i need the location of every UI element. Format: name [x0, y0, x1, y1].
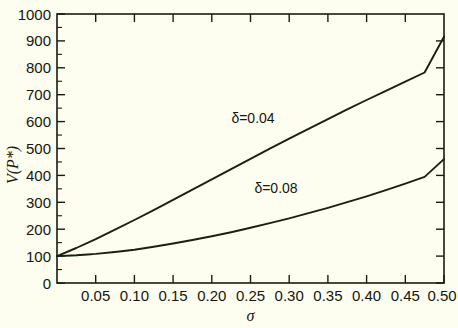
y-tick-label: 300: [26, 194, 51, 211]
figure-background: [0, 0, 458, 328]
x-tick-label: 0.25: [236, 287, 265, 304]
x-tick-label: 0.45: [391, 287, 420, 304]
annotation-delta-008: δ=0.08: [254, 180, 297, 196]
y-tick-label: 100: [26, 248, 51, 265]
x-axis-title: σ: [247, 307, 256, 324]
y-tick-label: 1000: [18, 6, 51, 23]
y-tick-label: 0: [43, 275, 51, 292]
y-tick-label: 200: [26, 221, 51, 238]
y-tick-label: 800: [26, 59, 51, 76]
x-tick-label: 0.30: [275, 287, 304, 304]
x-tick-label: 0.05: [81, 287, 110, 304]
plot-svg: 0 100 200 300 400 500 600 700 800 900 10…: [0, 0, 458, 328]
x-tick-label: 0.20: [197, 287, 226, 304]
x-tick-label: 0.10: [120, 287, 149, 304]
x-tick-label: 0.50: [427, 287, 456, 304]
y-tick-label: 600: [26, 113, 51, 130]
y-tick-label: 700: [26, 86, 51, 103]
y-axis-title: V(P*): [4, 146, 22, 184]
x-tick-label: 0.35: [313, 287, 342, 304]
x-tick-label: 0.15: [158, 287, 187, 304]
y-tick-label: 400: [26, 167, 51, 184]
chart-figure: 0 100 200 300 400 500 600 700 800 900 10…: [0, 0, 458, 328]
y-tick-label: 900: [26, 32, 51, 49]
annotation-delta-004: δ=0.04: [231, 110, 274, 126]
x-tick-label: 0.40: [352, 287, 381, 304]
y-tick-label: 500: [26, 140, 51, 157]
